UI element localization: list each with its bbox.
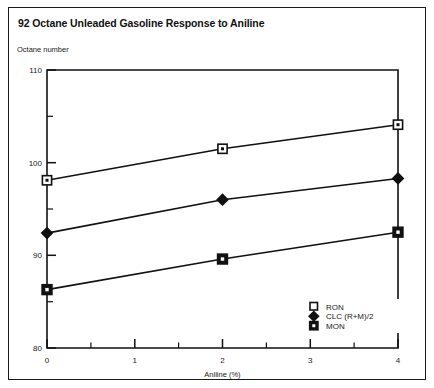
x-tick-label: 0 <box>45 356 50 365</box>
data-point-marker <box>42 228 53 239</box>
legend-item-mon: MON <box>310 322 345 331</box>
legend-label: RON <box>326 303 344 312</box>
legend-item-ron: RON <box>310 303 344 313</box>
legend-label: MON <box>326 322 345 331</box>
data-point-center <box>396 230 399 233</box>
chart-figure: 92 Octane Unleaded Gasoline Response to … <box>0 0 434 388</box>
x-tick-label: 4 <box>396 356 401 365</box>
x-axis-tick-labels: 0 1 2 3 4 <box>45 356 401 365</box>
plot-area: 110 100 90 80 0 1 2 3 4 An <box>0 0 434 388</box>
data-point-center <box>45 288 48 291</box>
data-point-center <box>221 147 224 150</box>
legend-label: CLC (R+M)/2 <box>326 312 374 321</box>
x-tick-label: 2 <box>220 356 225 365</box>
data-point-center <box>397 123 400 126</box>
y-tick-label: 80 <box>33 344 42 353</box>
chart-legend: RON CLC (R+M)/2 MON <box>305 299 401 333</box>
y-tick-label: 90 <box>33 251 42 260</box>
x-axis-major-ticks <box>47 339 398 348</box>
data-point-center <box>46 179 49 182</box>
series-mon <box>42 227 403 294</box>
data-point-marker <box>393 173 404 184</box>
y-tick-label: 110 <box>29 66 42 75</box>
y-axis-minor-ticks <box>47 116 53 301</box>
x-tick-label: 1 <box>133 356 138 365</box>
series-ron <box>42 120 402 185</box>
data-point-center <box>221 257 224 260</box>
data-point-marker <box>217 194 228 205</box>
data-series-layer <box>42 120 404 295</box>
y-tick-label: 100 <box>29 159 43 168</box>
x-axis-title: Aniline (%) <box>204 370 241 379</box>
series-clc-r-m-2 <box>42 173 404 238</box>
x-tick-label: 3 <box>308 356 313 365</box>
y-axis-tick-labels: 110 100 90 80 <box>29 66 43 353</box>
